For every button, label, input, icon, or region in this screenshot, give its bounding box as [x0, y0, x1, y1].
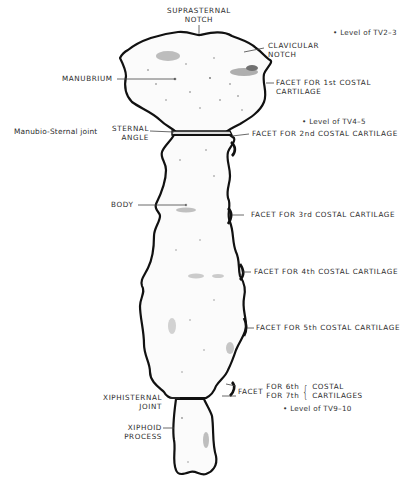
label-facet-ribs: FOR 6th FOR 7th — [266, 383, 299, 400]
level-tv4-5: • Level of TV4–5 — [302, 117, 366, 126]
body-outline — [140, 135, 246, 398]
label-line: STERNAL — [107, 124, 149, 133]
label-line: CLAVICULAR — [268, 41, 319, 50]
level-marker-icon: • — [333, 28, 338, 37]
level-marker-icon: • — [302, 117, 307, 126]
label-xiphisternal-joint: XIPHISTERNAL JOINT — [100, 393, 162, 411]
level-marker-icon: • — [283, 404, 288, 413]
label-line: NOTCH — [167, 15, 231, 24]
level-tv2-3: • Level of TV2–3 — [333, 28, 397, 37]
label-sternal-angle: STERNAL ANGLE — [107, 124, 149, 142]
label-body: BODY — [111, 200, 133, 209]
label-line: JOINT — [100, 402, 162, 411]
level-tv9-10: • Level of TV9–10 — [283, 404, 352, 413]
label-line: NOTCH — [268, 50, 319, 59]
label-facet-1st: FACET FOR 1st COSTAL CARTILAGE — [276, 78, 371, 96]
label-line: FOR 7th — [266, 392, 299, 401]
label-line: SUPRASTERNAL — [167, 6, 231, 15]
label-manubrium: MANUBRIUM — [62, 74, 113, 83]
sternum-diagram: SUPRASTERNAL NOTCH CLAVICULAR NOTCH • Le… — [0, 0, 414, 479]
brace-icon: { — [303, 384, 309, 400]
label-facet-prefix: FACET — [238, 387, 263, 396]
level-text: Level of TV9–10 — [290, 404, 352, 413]
label-line: CARTILAGE — [276, 87, 371, 96]
label-facet-5th: FACET FOR 5th COSTAL CARTILAGE — [256, 323, 400, 332]
level-text: Level of TV4–5 — [309, 117, 366, 126]
manubrium-outline — [120, 32, 271, 132]
label-line: ANGLE — [107, 133, 149, 142]
label-line: CARTILAGES — [312, 392, 363, 401]
label-xiphoid-process: XIPHOID PROCESS — [116, 423, 162, 441]
label-facet-suffix: COSTAL CARTILAGES — [312, 383, 363, 400]
label-line: XIPHOID — [116, 423, 162, 432]
label-clavicular-notch: CLAVICULAR NOTCH — [268, 41, 319, 59]
level-text: Level of TV2–3 — [340, 28, 397, 37]
label-facet-6th-7th: FACET FOR 6th FOR 7th { COSTAL CARTILAGE… — [238, 383, 363, 400]
label-line: XIPHISTERNAL — [100, 393, 162, 402]
label-manubrio-sternal-joint: Manubio-Sternal joint — [14, 127, 97, 136]
label-line: PROCESS — [116, 432, 162, 441]
label-facet-3rd: FACET FOR 3rd COSTAL CARTILAGE — [251, 210, 395, 219]
label-line: FACET FOR 1st COSTAL — [276, 78, 371, 87]
xiphoid-outline — [173, 399, 216, 474]
label-suprasternal-notch: SUPRASTERNAL NOTCH — [167, 6, 231, 24]
label-facet-4th: FACET FOR 4th COSTAL CARTILAGE — [254, 267, 398, 276]
label-facet-2nd: FACET FOR 2nd COSTAL CARTILAGE — [252, 129, 398, 138]
